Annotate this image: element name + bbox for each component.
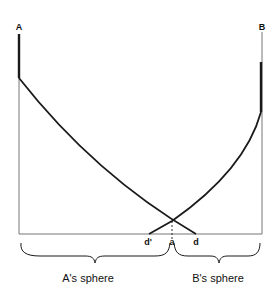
label-d-prime: d' — [144, 237, 152, 247]
label-a-endpoint: A — [16, 22, 23, 32]
label-a-sphere: A's sphere — [62, 272, 114, 284]
sphere-of-influence-diagram: A B d' a d A's sphere B's sphere — [0, 0, 278, 295]
label-d: d — [193, 237, 199, 247]
curve-a — [19, 78, 196, 234]
label-b-sphere: B's sphere — [192, 272, 244, 284]
label-b-endpoint: B — [259, 22, 266, 32]
brace-b-sphere — [174, 243, 260, 263]
